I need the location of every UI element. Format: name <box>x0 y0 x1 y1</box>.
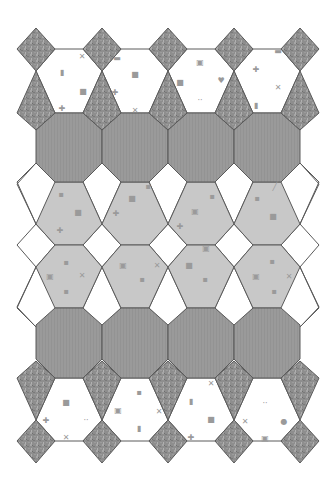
tile-glyph-icon: ▣ <box>261 434 269 443</box>
tile-glyph-icon: ▪ <box>209 192 214 201</box>
tile-glyph-icon: ■ <box>176 78 184 87</box>
tile-glyph-icon: ● <box>281 417 288 426</box>
tile-glyph-icon: ✚ <box>188 433 195 442</box>
tile-glyph-icon: ▪ <box>63 258 68 267</box>
side-kite-right-lower <box>300 267 319 327</box>
tile-glyph-icon: ▪ <box>145 182 150 191</box>
tiling-canvas: ▮■✚✕■✚✕▬▣■♥··✚✕▮▬▪■✚▪■✚▪▣✚╱▪■▪▣✕▪▣▪✕▣■▪▪… <box>0 0 336 491</box>
octagon-row-2 <box>168 308 234 378</box>
octagon-row-2 <box>36 308 102 378</box>
tile-glyph-icon: ▪ <box>254 194 259 203</box>
octagon-row-1 <box>168 113 234 182</box>
tile-glyph-icon: ✚ <box>253 65 260 74</box>
octagon-row-1 <box>36 113 102 182</box>
tile-glyph-icon: ▣ <box>252 272 260 281</box>
tile-glyph-icon: ▪ <box>139 275 144 284</box>
tile-glyph-icon: ✕ <box>154 261 161 270</box>
side-kite-left-upper <box>17 163 36 224</box>
tile-glyph-icon: ✚ <box>43 416 50 425</box>
tile-glyph-icon: ▪ <box>58 190 63 199</box>
tile-glyph-icon: ·· <box>197 96 202 105</box>
octagon-row-2 <box>234 308 300 378</box>
tile-glyph-icon: ♥ <box>217 76 224 85</box>
tile-glyph-icon: ▬ <box>113 54 121 63</box>
tile-glyph-icon: ■ <box>74 208 82 217</box>
tile-glyph-icon: ✚ <box>112 88 119 97</box>
tile-glyph-icon: ▣ <box>191 207 199 216</box>
tile-glyph-icon: ▪ <box>271 287 276 296</box>
tile-glyph-icon: ▣ <box>202 244 210 253</box>
tile-glyph-icon: ✕ <box>208 379 215 388</box>
tile-glyph-icon: ▪ <box>63 287 68 296</box>
tile-glyph-icon: ✚ <box>177 222 184 231</box>
tile-glyph-icon: ■ <box>62 398 70 407</box>
octagon-row-2 <box>102 308 168 378</box>
tile-glyph-icon: ■ <box>185 261 193 270</box>
tile-glyph-icon: ▪ <box>202 275 207 284</box>
tile-glyph-icon: ✕ <box>63 433 70 442</box>
tile-glyph-icon: ▪ <box>269 257 274 266</box>
octagon-row-1 <box>102 113 168 182</box>
tile-glyph-icon: ■ <box>131 70 139 79</box>
tile-glyph-icon: ▮ <box>60 68 64 77</box>
tile-glyph-icon: ■ <box>207 415 215 424</box>
tile-glyph-icon: ✕ <box>79 271 86 280</box>
tile-glyph-icon: ▣ <box>196 58 204 67</box>
tile-glyph-icon: ✚ <box>59 104 66 113</box>
tile-glyph-icon: ▬ <box>274 47 282 56</box>
tile-glyph-icon: ▣ <box>119 261 127 270</box>
tile-glyph-icon: ▣ <box>46 272 54 281</box>
tile-glyph-icon: ✕ <box>132 106 139 115</box>
side-kite-right-upper <box>300 163 319 224</box>
tile-glyph-icon: ■ <box>79 87 87 96</box>
tile-glyph-icon: ▣ <box>114 406 122 415</box>
tile-glyph-icon: ■ <box>128 194 136 203</box>
side-kite-left-lower <box>17 267 36 327</box>
tile-glyph-icon: ▮ <box>189 397 193 406</box>
octagon-row-1 <box>234 113 300 182</box>
tile-glyph-icon: ✕ <box>156 407 163 416</box>
tile-glyph-icon: ▮ <box>254 101 258 110</box>
tile-glyph-icon: ▮ <box>137 424 141 433</box>
tile-glyph-icon: ✕ <box>275 83 282 92</box>
tile-glyph-icon: ✕ <box>79 52 86 61</box>
tile-glyph-icon: ✕ <box>286 272 293 281</box>
tile-glyph-icon: ✕ <box>242 417 249 426</box>
tile-glyph-icon: ✚ <box>57 226 64 235</box>
tile-glyph-icon: ·· <box>262 399 267 408</box>
tile-glyph-icon: ▪ <box>136 388 141 397</box>
tile-glyph-icon: ■ <box>269 212 277 221</box>
tile-glyph-icon: ✚ <box>113 209 120 218</box>
tile-glyph-icon: ·· <box>83 416 88 425</box>
